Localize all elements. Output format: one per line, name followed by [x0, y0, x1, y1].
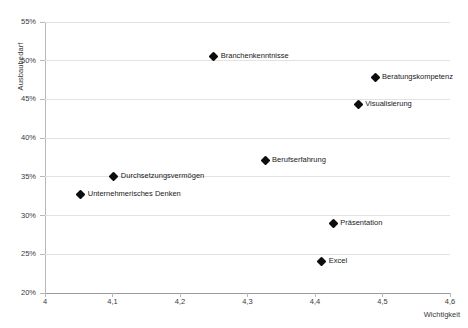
gridline: [45, 22, 450, 23]
diamond-marker-icon: [370, 73, 380, 83]
diamond-marker-icon: [109, 172, 119, 182]
y-tick-label: 35%: [0, 172, 36, 181]
diamond-marker-icon: [260, 156, 270, 166]
data-point-label: Unternehmerisches Denken: [88, 189, 181, 198]
diamond-marker-icon: [328, 218, 338, 228]
y-axis-tick: [40, 215, 45, 216]
gridline: [45, 254, 450, 255]
diamond-marker-icon: [317, 256, 327, 266]
x-axis-title: Wichtigkeit: [360, 310, 460, 319]
x-tick-label: 4: [25, 297, 65, 306]
diamond-marker-icon: [353, 99, 363, 109]
y-axis-tick: [40, 176, 45, 177]
y-axis-tick: [40, 22, 45, 23]
gridline: [45, 215, 450, 216]
x-tick-label: 4,4: [295, 297, 335, 306]
y-axis-tick: [40, 254, 45, 255]
scatter-chart: Ausbaubedarf Wichtigkeit 20%25%30%35%40%…: [0, 0, 468, 328]
data-point-label: Beratungskompetenz: [382, 72, 453, 81]
data-point-label: Durchsetzungsvermögen: [121, 171, 204, 180]
y-tick-label: 30%: [0, 211, 36, 220]
data-point-label: Berufserfahrung: [272, 155, 326, 164]
y-tick-label: 40%: [0, 133, 36, 142]
x-tick-label: 4,2: [160, 297, 200, 306]
y-tick-label: 25%: [0, 249, 36, 258]
x-tick-label: 4,5: [363, 297, 403, 306]
gridline: [45, 60, 450, 61]
data-point-label: Präsentation: [340, 218, 382, 227]
y-axis-tick: [40, 60, 45, 61]
data-point-label: Visualisierung: [365, 99, 412, 108]
y-tick-label: 45%: [0, 94, 36, 103]
y-axis-tick: [40, 138, 45, 139]
y-tick-label: 20%: [0, 288, 36, 297]
data-point-label: Excel: [329, 256, 347, 265]
y-axis-line: [45, 22, 46, 294]
gridline: [45, 138, 450, 139]
x-tick-label: 4,6: [430, 297, 468, 306]
gridline: [45, 176, 450, 177]
data-point-label: Branchenkenntnisse: [221, 51, 289, 60]
y-tick-label: 50%: [0, 56, 36, 65]
x-tick-label: 4,3: [228, 297, 268, 306]
diamond-marker-icon: [76, 190, 86, 200]
y-axis-tick: [40, 99, 45, 100]
y-tick-label: 55%: [0, 17, 36, 26]
x-tick-label: 4,1: [93, 297, 133, 306]
